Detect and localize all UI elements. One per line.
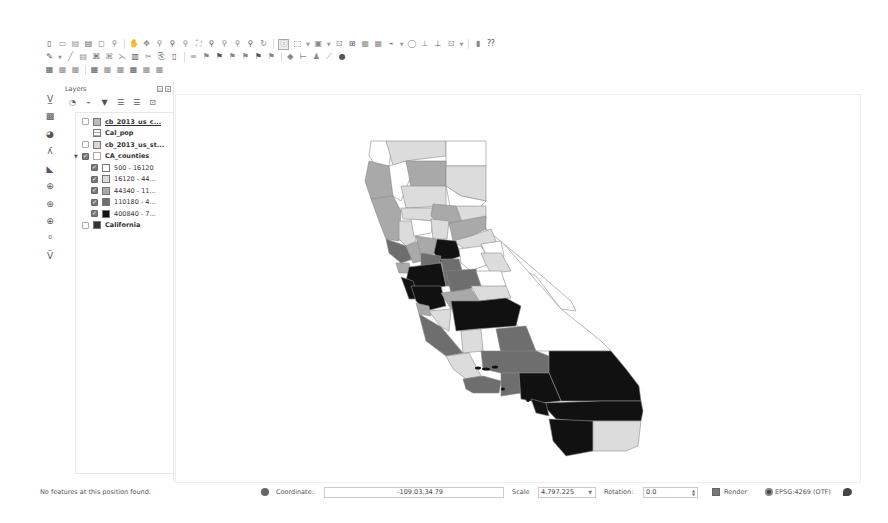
plugin-b-icon[interactable]: ⟋ (325, 53, 334, 62)
add-wfs-tool-icon[interactable]: ⊕ (45, 217, 55, 227)
dropdown-caret-icon[interactable]: ▼ (400, 41, 404, 47)
add-group-icon[interactable]: ⌁ (84, 99, 93, 108)
crs-status-button[interactable]: EPSG:4269 (OTF) (775, 488, 831, 496)
coordinate-field[interactable]: -109.03,34.79 (324, 487, 504, 498)
measure-area-icon[interactable]: ⊢ (299, 53, 308, 62)
add-feature-icon[interactable]: ⌘ (92, 53, 101, 62)
map-canvas[interactable] (175, 94, 861, 483)
render-checkbox[interactable] (712, 488, 720, 496)
layer-visibility-checkbox[interactable] (91, 176, 98, 183)
expand-arrow-icon[interactable]: ▼ (74, 153, 82, 159)
move-label-icon[interactable]: ⚑ (228, 53, 237, 62)
filter-legend-icon[interactable]: ▼ (100, 99, 109, 108)
label-diagram-icon[interactable]: ⚑ (267, 53, 276, 62)
scale-combobox[interactable]: 4.797.225 ▼ (538, 487, 596, 498)
add-oracle-layer-icon[interactable]: ▦ (116, 66, 125, 75)
coordinate-toggle-icon[interactable] (261, 488, 269, 496)
layer-tree[interactable]: cb_2013_us_c...Cal_popcb_2013_us_st...▼C… (75, 112, 173, 474)
help-icon[interactable]: ⁇ (486, 40, 495, 49)
dropdown-caret-icon[interactable]: ▼ (306, 41, 310, 47)
legend-class-item[interactable]: 44340 - 11... (76, 185, 173, 197)
open-attribute-table-icon[interactable]: ▦ (361, 40, 370, 49)
new-bookmark-icon[interactable]: ⊥ (421, 40, 430, 49)
zoom-in-icon[interactable]: ⚲ (155, 40, 164, 49)
messages-icon[interactable] (843, 488, 852, 496)
dropdown-caret-icon[interactable]: ▼ (460, 41, 464, 47)
new-project-icon[interactable]: ▯ (45, 40, 54, 49)
select-features-icon[interactable]: ⬚ (293, 40, 302, 49)
layer-visibility-checkbox[interactable] (91, 164, 98, 171)
add-vector-layer-icon[interactable]: ▦ (45, 66, 54, 75)
close-panel-button[interactable]: × (165, 86, 171, 92)
open-project-icon[interactable]: ▭ (58, 40, 67, 49)
layer-item[interactable]: cb_2013_us_c... (76, 116, 173, 128)
layer-visibility-checkbox[interactable] (82, 141, 89, 148)
copy-features-icon[interactable]: ⎘ (157, 53, 166, 62)
layer-visibility-checkbox[interactable] (91, 187, 98, 194)
deselect-all-icon[interactable]: ⊡ (335, 40, 344, 49)
float-panel-button[interactable]: ▫ (157, 86, 163, 92)
layer-item[interactable]: California (76, 220, 173, 232)
show-bookmarks-icon[interactable]: ⊥ (434, 40, 443, 49)
legend-class-item[interactable]: 500 - 16120 (76, 162, 173, 174)
pan-to-selection-icon[interactable]: ✥ (142, 40, 151, 49)
add-wfs-layer-icon[interactable]: ▦ (155, 66, 164, 75)
zoom-out-icon[interactable]: ⚲ (168, 40, 177, 49)
add-postgis-layer-icon[interactable]: ▦ (71, 66, 80, 75)
composer-manager-icon[interactable]: ⚲ (110, 40, 119, 49)
add-mssql-tool-icon[interactable]: ◣ (45, 164, 55, 174)
zoom-last-icon[interactable]: ⚲ (233, 40, 242, 49)
layer-visibility-checkbox[interactable] (82, 118, 89, 125)
add-raster-layer-icon[interactable]: ▦ (58, 66, 67, 75)
save-as-icon[interactable]: ▤ (84, 40, 93, 49)
expand-all-icon[interactable]: ☰ (116, 99, 125, 108)
text-annotation-icon[interactable]: ⊡ (447, 40, 456, 49)
layer-item[interactable]: cb_2013_us_st... (76, 139, 173, 151)
python-console-icon[interactable]: ▮ (473, 40, 482, 49)
layer-item[interactable]: ▼CA_counties (76, 151, 173, 163)
refresh-icon[interactable]: ↻ (259, 40, 268, 49)
toggle-editing-icon[interactable]: ╱ (66, 53, 75, 62)
dropdown-caret-icon[interactable]: ▼ (327, 41, 331, 47)
paste-features-icon[interactable]: ▯ (170, 53, 179, 62)
delete-selected-icon[interactable]: ▥ (131, 53, 140, 62)
label-tool-icon[interactable]: ≡ (189, 53, 198, 62)
node-tool-icon[interactable]: ⋋ (118, 53, 127, 62)
gps-tool-icon[interactable]: ◆ (286, 53, 295, 62)
legend-class-item[interactable]: 110180 - 4... (76, 197, 173, 209)
add-wcs-layer-icon[interactable]: ▦ (142, 66, 151, 75)
collapse-all-icon[interactable]: ☰ (132, 99, 141, 108)
zoom-to-selection-icon[interactable]: ⛶ (194, 40, 203, 49)
add-spatialite-layer-icon[interactable]: ▦ (90, 66, 99, 75)
change-label-icon[interactable]: ⚑ (254, 53, 263, 62)
plugin-a-icon[interactable]: ♟ (312, 53, 321, 62)
identify-features-icon[interactable]: ⓘ (278, 39, 289, 50)
map-tips-icon[interactable]: ◯ (408, 40, 417, 49)
add-mssql-layer-icon[interactable]: ▦ (103, 66, 112, 75)
move-feature-icon[interactable]: ⌘ (105, 53, 114, 62)
rotation-spinbox[interactable]: 0.0 ▲▼ (643, 487, 698, 498)
layer-visibility-checkbox[interactable] (82, 153, 89, 160)
zoom-to-layer-icon[interactable]: ⚲ (207, 40, 216, 49)
select-by-expression-icon[interactable]: ⊞ (348, 40, 357, 49)
add-raster-tool-icon[interactable]: ▩ (45, 112, 55, 122)
select-by-area-icon[interactable]: ▣ (314, 40, 323, 49)
zoom-full-icon[interactable]: ⚲ (181, 40, 190, 49)
cut-features-icon[interactable]: ✂ (144, 53, 153, 62)
measure-line-icon[interactable]: ⌁ (387, 40, 396, 49)
layer-visibility-checkbox[interactable] (82, 222, 89, 229)
add-spatialite-tool-icon[interactable]: ◕ (45, 129, 55, 139)
remove-layer-icon[interactable]: ⊡ (148, 99, 157, 108)
add-wcs-tool-icon[interactable]: ⊛ (45, 199, 55, 209)
plugin-c-icon[interactable]: ● (338, 53, 347, 62)
layer-item[interactable]: Cal_pop (76, 128, 173, 140)
legend-class-item[interactable]: 16120 - 44... (76, 174, 173, 186)
add-wms-layer-icon[interactable]: ▦ (129, 66, 138, 75)
new-print-composer-icon[interactable]: ◻ (97, 40, 106, 49)
rotate-label-icon[interactable]: ⚑ (241, 53, 250, 62)
pin-labels-icon[interactable]: ⚑ (202, 53, 211, 62)
open-layer-styling-icon[interactable]: ◔ (68, 99, 77, 108)
layer-visibility-checkbox[interactable] (91, 199, 98, 206)
add-delimited-text-icon[interactable]: V̲ (45, 94, 55, 104)
show-hide-labels-icon[interactable]: ⚑ (215, 53, 224, 62)
